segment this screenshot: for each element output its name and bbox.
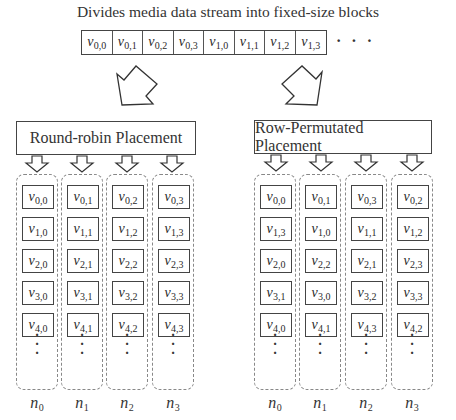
node-label: n3 — [152, 394, 194, 413]
node-label: n1 — [61, 394, 103, 413]
data-block: v1,3 — [260, 217, 292, 241]
data-block: v3,3 — [397, 281, 429, 305]
data-block: v1,1 — [351, 217, 383, 241]
block-label: v2,1 — [73, 253, 92, 270]
block-label: v0,2 — [403, 189, 422, 206]
storage-node-1: v0,1v1,0v2,2v3,0v4,1··· — [299, 174, 341, 390]
block-label: v3,0 — [28, 285, 47, 302]
block-label: v3,1 — [73, 285, 92, 302]
vertical-ellipsis: ··· — [255, 331, 295, 358]
data-block: v2,0 — [260, 249, 292, 273]
block-label: v2,2 — [311, 253, 330, 270]
block-label: v1,1 — [357, 221, 376, 238]
vertical-ellipsis: ··· — [300, 331, 340, 358]
data-block: v0,3 — [158, 185, 190, 209]
data-block: v0,2 — [112, 185, 144, 209]
data-block: v2,2 — [305, 249, 337, 273]
block-label: v1,1 — [73, 221, 92, 238]
data-block: v2,3 — [158, 249, 190, 273]
data-block: v0,2 — [397, 185, 429, 209]
data-block: v0,0 — [260, 185, 292, 209]
data-block: v3,2 — [351, 281, 383, 305]
data-block: v2,2 — [112, 249, 144, 273]
data-block: v0,1 — [305, 185, 337, 209]
data-block: v0,1 — [67, 185, 99, 209]
block-label: v0,2 — [118, 189, 137, 206]
block-label: v1,2 — [403, 221, 422, 238]
storage-node-3: v0,3v1,3v2,3v3,3v4,3··· — [152, 174, 194, 390]
data-block: v1,2 — [112, 217, 144, 241]
vertical-ellipsis: ··· — [62, 331, 102, 358]
vertical-ellipsis: ··· — [153, 331, 193, 358]
block-label: v0,3 — [357, 189, 376, 206]
data-block: v2,3 — [397, 249, 429, 273]
data-block: v2,1 — [67, 249, 99, 273]
storage-node-0: v0,0v1,0v2,0v3,0v4,0··· — [16, 174, 58, 390]
data-block: v3,0 — [22, 281, 54, 305]
data-block: v3,3 — [158, 281, 190, 305]
data-block: v0,3 — [351, 185, 383, 209]
storage-node-0: v0,0v1,3v2,0v3,1v4,0··· — [254, 174, 296, 390]
storage-node-1: v0,1v1,1v2,1v3,1v4,1··· — [61, 174, 103, 390]
node-label: n1 — [299, 394, 341, 413]
block-label: v1,0 — [311, 221, 330, 238]
storage-node-2: v0,2v1,2v2,2v3,2v4,2··· — [106, 174, 148, 390]
block-label: v3,3 — [164, 285, 183, 302]
data-block: v3,1 — [260, 281, 292, 305]
node-label: n3 — [391, 394, 433, 413]
block-label: v3,2 — [357, 285, 376, 302]
storage-node-3: v0,2v1,2v2,3v3,3v4,2··· — [391, 174, 433, 390]
block-label: v2,3 — [164, 253, 183, 270]
data-block: v2,0 — [22, 249, 54, 273]
data-block: v1,1 — [67, 217, 99, 241]
vertical-ellipsis: ··· — [107, 331, 147, 358]
block-label: v3,3 — [403, 285, 422, 302]
vertical-ellipsis: ··· — [346, 331, 386, 358]
vertical-ellipsis: ··· — [17, 331, 57, 358]
block-label: v0,3 — [164, 189, 183, 206]
data-block: v0,0 — [22, 185, 54, 209]
block-label: v0,0 — [28, 189, 47, 206]
data-block: v3,0 — [305, 281, 337, 305]
block-label: v1,0 — [28, 221, 47, 238]
data-block: v1,0 — [305, 217, 337, 241]
block-label: v2,1 — [357, 253, 376, 270]
data-block: v1,3 — [158, 217, 190, 241]
node-label: n2 — [345, 394, 387, 413]
data-block: v2,1 — [351, 249, 383, 273]
data-block: v1,2 — [397, 217, 429, 241]
storage-node-2: v0,3v1,1v2,1v3,2v4,3··· — [345, 174, 387, 390]
block-label: v2,2 — [118, 253, 137, 270]
node-label: n0 — [254, 394, 296, 413]
block-label: v2,3 — [403, 253, 422, 270]
node-label: n2 — [106, 394, 148, 413]
node-label: n0 — [16, 394, 58, 413]
block-label: v2,0 — [266, 253, 285, 270]
block-label: v0,1 — [73, 189, 92, 206]
block-label: v0,0 — [266, 189, 285, 206]
data-block: v3,2 — [112, 281, 144, 305]
block-label: v1,2 — [118, 221, 137, 238]
block-label: v0,1 — [311, 189, 330, 206]
block-label: v1,3 — [266, 221, 285, 238]
block-label: v3,0 — [311, 285, 330, 302]
block-label: v3,2 — [118, 285, 137, 302]
vertical-ellipsis: ··· — [392, 331, 432, 358]
data-block: v1,0 — [22, 217, 54, 241]
block-label: v1,3 — [164, 221, 183, 238]
data-block: v3,1 — [67, 281, 99, 305]
block-label: v3,1 — [266, 285, 285, 302]
block-label: v2,0 — [28, 253, 47, 270]
